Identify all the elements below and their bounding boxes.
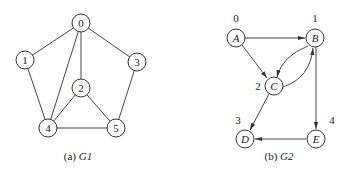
g1-caption: (a) G1	[64, 150, 92, 163]
edge-C-B	[283, 48, 313, 87]
g2-node-A: A0	[227, 12, 245, 47]
g1-node-3: 3	[128, 53, 146, 71]
graph-g1: 0 1 2 3 4 5 (a) G1	[16, 14, 146, 163]
g2-node-label: D	[240, 133, 249, 145]
edge-C-D	[250, 94, 269, 130]
g2-node-index: 0	[233, 12, 239, 24]
g1-node-2: 2	[72, 79, 90, 97]
g2-node-label: C	[270, 80, 278, 92]
g1-node-4: 4	[39, 119, 57, 137]
g2-node-E: E4	[307, 114, 335, 148]
g2-node-label: B	[312, 32, 319, 44]
g2-node-index: 1	[312, 12, 318, 24]
g2-node-index: 3	[235, 114, 241, 126]
g2-node-index: 2	[255, 80, 261, 92]
edge-3-5	[116, 62, 137, 128]
edge-0-4	[48, 23, 81, 128]
g1-node-label: 4	[45, 122, 51, 134]
g1-edges	[25, 23, 137, 128]
g2-node-label: E	[312, 133, 320, 145]
edge-B-C	[277, 46, 308, 77]
g1-node-label: 3	[134, 56, 140, 68]
graph-g2: A0 B1 C2 D3 E4 (b) G2	[227, 12, 335, 163]
g2-caption: (b) G2	[264, 150, 294, 163]
g1-node-label: 1	[22, 54, 28, 66]
g1-node-label: 2	[78, 82, 84, 94]
g2-node-label: A	[232, 32, 240, 44]
g1-node-label: 0	[78, 17, 84, 29]
g1-node-1: 1	[16, 51, 34, 69]
edge-0-1	[25, 23, 81, 60]
g1-node-0: 0	[72, 14, 90, 32]
graph-figure: 0 1 2 3 4 5 (a) G1 A0 B1 C2 D3 E4 (b) G2	[0, 0, 342, 175]
g2-node-B: B1	[306, 12, 324, 47]
edge-1-4	[25, 60, 48, 128]
edge-0-3	[81, 23, 137, 62]
g1-node-label: 5	[113, 122, 119, 134]
g2-node-D: D3	[235, 114, 254, 148]
edge-A-C	[242, 45, 267, 78]
g2-node-C: C2	[255, 77, 283, 95]
g2-node-index: 4	[329, 114, 335, 126]
g1-node-5: 5	[107, 119, 125, 137]
